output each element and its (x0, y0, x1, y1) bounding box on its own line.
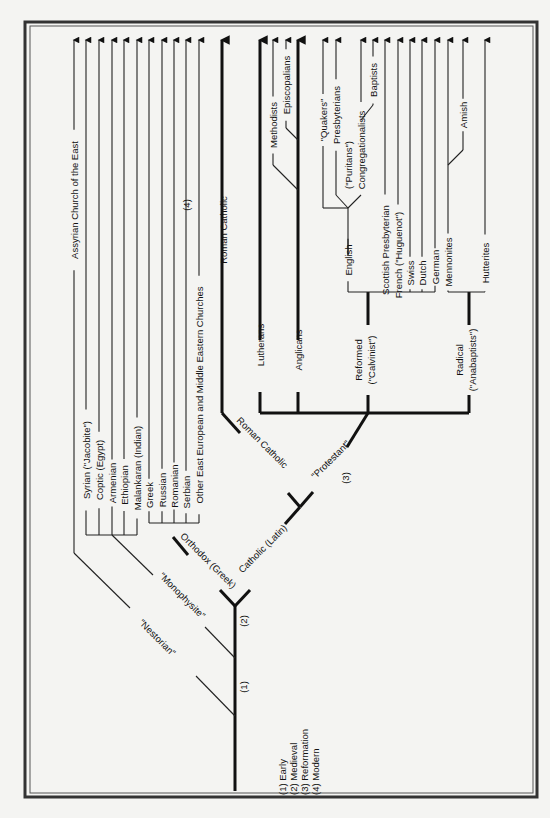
church-label-ethiopian: Ethiopian (119, 465, 130, 505)
era-marker-4: (4) (181, 199, 192, 211)
branch-label-calvinist: ("Calvinist") (366, 336, 377, 385)
christianity-branch-diagram: Assyrian Church of the EastSyrian ("Jaco… (0, 0, 550, 818)
church-label-german: German (430, 250, 441, 284)
church-label-serbian: Serbian (181, 476, 192, 509)
legend-item-reformation: (3) Reformation (299, 729, 310, 795)
church-label-amish: Amish (458, 102, 469, 128)
diagram-frame (25, 22, 537, 797)
church-label-greek: Greek (144, 482, 155, 508)
church-label-baptists: Baptists (368, 63, 379, 97)
branch-label-monophysite: "Monophysite" (157, 570, 208, 621)
legend-item-early: (1) Early (277, 759, 288, 795)
church-label-dutch: Dutch (417, 261, 428, 286)
church-label-romanian: Romanian (169, 464, 180, 507)
legend-item-modern: (4) Modern (310, 749, 321, 795)
era-legend: (1) Early (2) Medieval (3) Reformation (… (277, 729, 321, 795)
church-labels: Assyrian Church of the EastSyrian ("Jaco… (69, 55, 491, 510)
church-label-hutterites: Hutterites (480, 242, 491, 283)
church-label-coptic-egypt: Coptic (Egypt) (94, 440, 105, 500)
branch-label-nestorian: "Nestorian" (137, 617, 178, 658)
legend-item-medieval: (2) Medieval (288, 743, 299, 795)
church-label-other-east-european-and-middle-eastern-churches: Other East European and Middle Eastern C… (194, 286, 205, 503)
tree-trunk (173, 40, 469, 791)
branch-label-catholic-latin: Catholic (Latin) (236, 522, 289, 575)
church-label-malankaran-indian: Malankaran (Indian) (132, 426, 143, 511)
tree-thin-branches (74, 105, 485, 716)
church-label-russian: Russian (157, 473, 168, 507)
church-label-mennonites: Mennonites (443, 237, 454, 286)
church-label-anglicans: Anglicans (293, 329, 304, 370)
church-label-english: English (343, 244, 354, 275)
church-label-quakers: "Quakers" (318, 99, 329, 142)
church-label-presbyterians: Presbyterians (331, 86, 342, 144)
era-marker-2: (2) (238, 615, 249, 627)
church-label-assyrian-church-of-the-east: Assyrian Church of the East (69, 141, 80, 259)
church-label-congregationalists: Congregationalists (356, 110, 367, 189)
church-label-lutherans: Lutherans (255, 324, 266, 367)
church-label-syrian-jacobite: Syrian ("Jacobite") (81, 421, 92, 499)
branch-label-reformed: Reformed (353, 339, 364, 381)
era-marker-3: (3) (340, 472, 351, 484)
era-marker-1: (1) (238, 681, 249, 693)
church-label-puritans: ("Puritans") (343, 141, 354, 189)
branch-label-anabaptists: ("Anabaptists") (467, 329, 478, 392)
church-label-scottish-presbyterian: Scottish Presbyterian (380, 205, 391, 295)
church-label-methodists: Methodists (268, 102, 279, 148)
church-label-armenian: Armenian (107, 463, 118, 504)
branch-label-orthodox-greek: Orthodox (Greek) (178, 531, 238, 591)
church-label-french-huguenot: French ("Huguenot") (393, 212, 404, 298)
branch-label-radical: Radical (454, 344, 465, 376)
branch-label-roman-catholic: Roman Catholic (235, 415, 291, 471)
church-label-roman-catholic: Roman Catholic (218, 196, 229, 264)
church-label-episcopalians: Episcopalians (281, 55, 292, 114)
church-label-swiss: Swiss (405, 260, 416, 285)
